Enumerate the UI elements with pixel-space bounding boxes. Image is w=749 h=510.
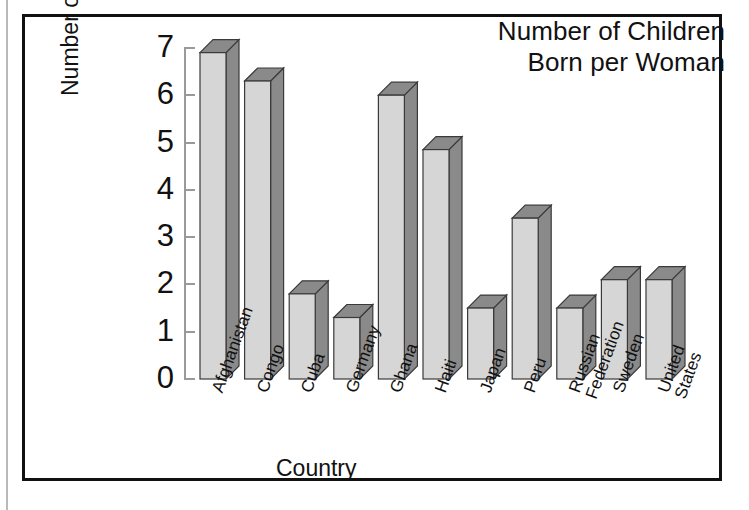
x-axis-title: Country	[276, 455, 357, 482]
figure-page: Number of Children Born per Woman 012345…	[0, 0, 749, 510]
x-axis-label-haiti: Haiti	[432, 357, 460, 395]
x-axis-label-germany: Germany	[343, 323, 384, 395]
x-axis-label-congo: Congo	[254, 342, 288, 395]
x-axis-labels: AfghanistanCongoCubaGermanyGhanaHaitiJap…	[0, 0, 749, 510]
x-axis-label-united-states: United States	[655, 343, 705, 401]
x-axis-label-peru: Peru	[521, 355, 550, 395]
x-axis-label-japan: Japan	[477, 345, 509, 395]
x-axis-label-afghanistan: Afghanistan	[209, 305, 256, 395]
x-axis-label-cuba: Cuba	[298, 351, 329, 395]
x-axis-label-ghana: Ghana	[387, 341, 421, 395]
